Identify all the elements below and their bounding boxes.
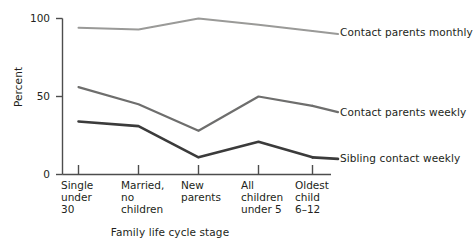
x-category-label-3-line-2: under 5 [241,204,283,216]
x-category-label-4-line-1: child [295,192,329,204]
x-category-label-1-line-2: children [121,204,164,216]
x-category-label-2-line-1: parents [181,192,221,204]
x-category-label-3-line-1: children [241,192,283,204]
series-leader-sibling [313,157,339,159]
y-tick-label-0: 0 [22,169,50,181]
series-leader-monthly [313,31,339,34]
series-line-sibling-contact-weekly [79,121,313,157]
y-axis-title: Percent [12,57,24,117]
series-line-contact-parents-monthly [79,19,313,31]
x-category-label-2: New parents [181,180,221,204]
x-category-label-4: Oldest child 6–12 [295,180,329,215]
x-category-label-0-line-2: 30 [61,204,93,216]
x-category-label-0-line-1: under [61,192,93,204]
x-category-label-4-line-2: 6–12 [295,204,329,216]
series-label-sibling-contact-weekly: Sibling contact weekly [340,152,460,164]
y-tick-label-100: 100 [22,13,50,25]
x-category-label-1-line-1: no [121,192,164,204]
x-axis-title: Family life cycle stage [0,226,340,238]
x-category-label-3: All children under 5 [241,180,283,215]
x-category-label-0: Single under 30 [61,180,93,215]
series-label-contact-parents-monthly: Contact parents monthly [340,26,473,38]
y-tick-label-50: 50 [22,91,50,103]
series-group [79,19,339,159]
x-category-label-1: Married, no children [121,180,164,215]
series-leader-weekly [313,106,339,112]
series-label-contact-parents-weekly: Contact parents weekly [340,106,466,118]
